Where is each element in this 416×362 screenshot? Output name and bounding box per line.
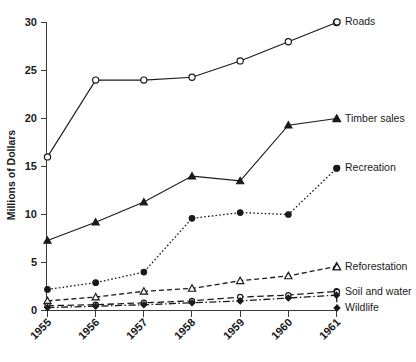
series-timber-sales [44,115,341,243]
data-point-roads-1958 [189,74,195,80]
series-label-timber-sales: Timber sales [345,112,405,124]
y-tick-label-25: 25 [25,64,37,76]
data-point-recreation-1958 [189,216,195,222]
series-roads [44,19,340,160]
x-tick-label-1961: 1961 [317,316,343,342]
y-tick-label-15: 15 [25,160,37,172]
series-recreation [45,165,340,292]
x-tick-label-1955: 1955 [28,316,54,342]
data-point-roads-1960 [285,39,291,45]
x-tick-label-1959: 1959 [221,316,247,342]
data-point-recreation-1959 [237,210,243,216]
data-point-recreation-1956 [93,280,99,286]
x-tick-label-1957: 1957 [124,316,150,342]
series-line-roads [48,23,337,157]
data-point-recreation-1957 [141,269,147,275]
y-tick-label-5: 5 [31,256,37,268]
data-point-roads-1957 [141,77,147,83]
data-point-roads-1955 [44,154,50,160]
y-tick-label-10: 10 [25,208,37,220]
y-tick-label-20: 20 [25,112,37,124]
data-point-timber-sales-1956 [92,219,99,225]
y-axis-title: Millions of Dollars [5,130,17,221]
series-label-recreation: Recreation [345,161,396,173]
x-axis-ticks [48,311,337,318]
series-label-reforestation: Reforestation [345,260,408,272]
line-chart-svg: 30 25 20 15 10 5 0 Millions of Dollars 1… [0,0,416,362]
series-end-marker-recreation [334,165,340,171]
data-point-roads-1959 [237,58,243,64]
data-point-recreation-1955 [45,287,51,293]
x-tick-label-1958: 1958 [172,316,198,342]
y-tick-label-30: 30 [25,16,37,28]
data-point-recreation-1960 [286,212,292,218]
series-layer [44,19,341,311]
y-axis-ticks [41,23,47,311]
series-label-wildlife: Wildlife [345,301,379,313]
series-label-soil-and-water: Soil and water [345,285,412,297]
series-wildlife [45,292,341,311]
x-tick-label-1960: 1960 [269,316,295,342]
series-line-timber-sales [48,119,337,241]
series-label-roads: Roads [345,15,375,27]
y-tick-label-0: 0 [31,304,37,316]
data-point-timber-sales-1957 [140,198,147,204]
series-line-recreation [48,168,337,289]
series-end-marker-roads [334,19,340,25]
chart-container: 30 25 20 15 10 5 0 Millions of Dollars 1… [0,0,416,362]
data-point-roads-1956 [93,77,99,83]
x-tick-label-1956: 1956 [76,316,102,342]
data-point-timber-sales-1958 [188,173,195,179]
